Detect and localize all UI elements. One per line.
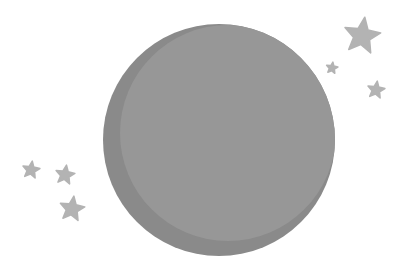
moon-face-disc: [120, 25, 336, 241]
star-left-medium-icon: [56, 165, 75, 184]
star-left-bottom-icon: [60, 196, 84, 220]
star-top-right-small-icon: [327, 62, 338, 73]
star-top-right-large-icon: [345, 17, 381, 53]
star-right-medium-icon: [368, 81, 385, 98]
star-left-small-icon: [23, 161, 40, 178]
moon-stars-illustration: [0, 0, 410, 269]
moon: [103, 24, 336, 256]
